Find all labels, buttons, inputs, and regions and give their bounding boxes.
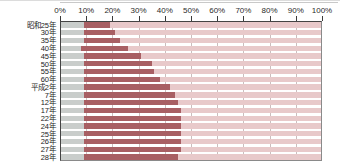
bar-segment-3 <box>181 116 322 121</box>
bar-segment-3 <box>181 139 322 144</box>
bar-segment-3 <box>181 131 322 136</box>
bar-segment-2 <box>84 108 181 113</box>
bar-segment-1 <box>60 108 84 113</box>
bar-segment-3 <box>115 30 322 35</box>
x-tick-label: 50% <box>183 5 199 16</box>
bar-row <box>60 53 322 58</box>
bar-segment-1 <box>60 22 84 27</box>
bar-segment-3 <box>110 22 322 27</box>
bar-segment-1 <box>60 154 84 159</box>
bar-row <box>60 69 322 74</box>
x-tick-label: 20% <box>104 5 120 16</box>
bar-row <box>60 154 322 159</box>
bar-row <box>60 147 322 152</box>
x-tick-label: 60% <box>209 5 225 16</box>
bar-row <box>60 92 322 97</box>
bar-segment-2 <box>84 131 181 136</box>
bar-segment-1 <box>60 139 84 144</box>
bar-segment-2 <box>84 139 181 144</box>
x-tick-label: 40% <box>157 5 173 16</box>
bar-segment-3 <box>160 77 322 82</box>
bar-segment-2 <box>84 30 115 35</box>
bar-segment-1 <box>60 61 84 66</box>
bar-row <box>60 77 322 82</box>
bar-row <box>60 108 322 113</box>
bar-segment-1 <box>60 100 84 105</box>
x-tick-label: 30% <box>131 5 147 16</box>
bar-segment-2 <box>84 22 110 27</box>
x-tick-label: 100% <box>312 5 332 16</box>
bar-segment-1 <box>60 77 84 82</box>
bar-segment-3 <box>141 53 322 58</box>
bar-segment-1 <box>60 123 84 128</box>
bar-row <box>60 100 322 105</box>
y-category-label: 28年 <box>41 154 56 162</box>
bar-segment-1 <box>60 46 81 51</box>
x-tick-mark <box>322 16 323 21</box>
bar-row <box>60 61 322 66</box>
top-border-line <box>0 0 340 1</box>
x-tick-label: 90% <box>288 5 304 16</box>
bar-segment-1 <box>60 147 84 152</box>
x-tick-label: 10% <box>78 5 94 16</box>
bar-segment-1 <box>60 116 84 121</box>
plot-area <box>60 21 322 161</box>
bar-segment-2 <box>84 92 176 97</box>
bar-segment-3 <box>178 154 322 159</box>
bar-row <box>60 116 322 121</box>
bar-segment-3 <box>181 147 322 152</box>
bar-segment-1 <box>60 30 84 35</box>
chart-figure: 0%10%20%30%40%50%60%70%80%90%100% 昭和25年3… <box>0 0 340 163</box>
bar-segment-1 <box>60 84 84 89</box>
x-tick-label: 80% <box>262 5 278 16</box>
x-tick-label: 0% <box>54 5 66 16</box>
bar-segment-1 <box>60 38 84 43</box>
bar-row <box>60 139 322 144</box>
bar-row <box>60 84 322 89</box>
bar-segment-2 <box>84 38 121 43</box>
bar-segment-3 <box>175 92 322 97</box>
y-axis-category-labels: 昭和25年30年35年40年45年50年55年60年平成2年7年12年17年22… <box>0 21 58 161</box>
x-axis-tick-labels: 0%10%20%30%40%50%60%70%80%90%100% <box>0 5 340 16</box>
bar-segment-2 <box>84 69 155 74</box>
bar-segment-1 <box>60 131 84 136</box>
bar-row <box>60 30 322 35</box>
bar-segment-3 <box>181 108 322 113</box>
bar-segment-2 <box>84 154 178 159</box>
bar-segment-2 <box>84 53 142 58</box>
bar-segment-2 <box>84 77 160 82</box>
bar-segment-2 <box>84 123 181 128</box>
bar-segment-3 <box>120 38 322 43</box>
x-tick-label: 70% <box>235 5 251 16</box>
bar-segment-1 <box>60 92 84 97</box>
bar-segment-1 <box>60 53 84 58</box>
bar-segment-2 <box>81 46 128 51</box>
axis-header-rule <box>60 2 338 3</box>
bar-segment-1 <box>60 69 84 74</box>
bar-segment-3 <box>152 61 322 66</box>
bar-segment-3 <box>178 100 322 105</box>
bar-segment-3 <box>181 123 322 128</box>
bar-row <box>60 46 322 51</box>
bar-row <box>60 38 322 43</box>
bar-row <box>60 22 322 27</box>
bar-segment-2 <box>84 116 181 121</box>
bar-segment-2 <box>84 147 181 152</box>
bar-segment-2 <box>84 100 178 105</box>
bar-segment-2 <box>84 61 152 66</box>
bar-segment-3 <box>128 46 322 51</box>
bar-row <box>60 131 322 136</box>
bar-segment-3 <box>154 69 322 74</box>
bar-segment-3 <box>170 84 322 89</box>
bar-row <box>60 123 322 128</box>
bar-segment-2 <box>84 84 170 89</box>
